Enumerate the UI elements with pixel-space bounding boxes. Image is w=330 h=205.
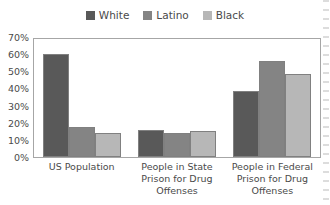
y-axis: 70%60%50%40%30%20%10%0% (0, 38, 31, 158)
x-axis-label-2: People in Federal Prison for Drug Offens… (225, 161, 320, 205)
x-axis-label-1: People in State Prison for Drug Offenses (129, 161, 224, 205)
bar-white-0 (43, 54, 69, 157)
legend-label-white: White (99, 10, 130, 21)
bar-black-0 (95, 133, 121, 157)
bar-latino-1 (164, 133, 190, 157)
y-axis-tick-1: 60% (8, 50, 29, 60)
legend-swatch-black-icon (203, 11, 212, 20)
bar-group-0 (34, 39, 129, 157)
legend-label-latino: Latino (156, 10, 188, 21)
bar-black-2 (285, 74, 311, 157)
bar-latino-0 (69, 127, 95, 157)
legend-item-latino: Latino (143, 10, 188, 21)
y-axis-tick-5: 20% (8, 119, 29, 129)
x-axis-label-0: US Population (34, 161, 129, 205)
bars-area (34, 39, 320, 157)
legend-label-black: Black (216, 10, 244, 21)
y-axis-tick-6: 10% (8, 136, 29, 146)
bar-white-2 (233, 91, 259, 157)
bar-white-1 (138, 130, 164, 157)
legend-item-white: White (86, 10, 130, 21)
chart-legend: White Latino Black (0, 6, 330, 24)
y-axis-tick-4: 30% (8, 102, 29, 112)
bar-black-1 (190, 131, 216, 157)
bar-chart: White Latino Black 70%60%50%40%30%20%10%… (0, 0, 330, 205)
y-axis-tick-3: 40% (8, 85, 29, 95)
legend-swatch-latino-icon (143, 11, 152, 20)
bar-latino-2 (259, 61, 285, 157)
y-axis-tick-2: 50% (8, 68, 29, 78)
y-axis-tick-7: 0% (14, 153, 29, 163)
legend-item-black: Black (203, 10, 244, 21)
y-axis-tick-0: 70% (8, 33, 29, 43)
x-axis: US Population People in State Prison for… (34, 161, 320, 205)
legend-swatch-white-icon (86, 11, 95, 20)
bar-group-1 (129, 39, 224, 157)
bar-group-2 (225, 39, 320, 157)
scan-edge-artifact (323, 0, 329, 205)
